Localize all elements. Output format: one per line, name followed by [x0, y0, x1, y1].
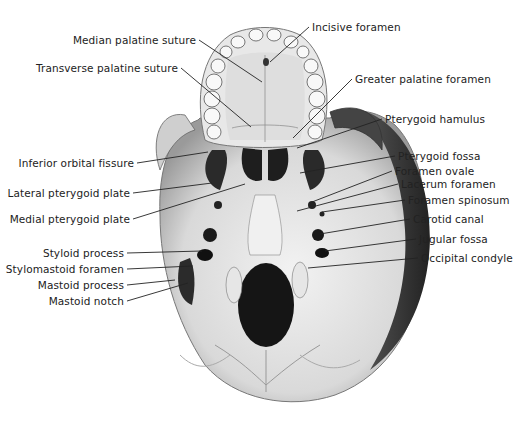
label-greater-palatine-foramen: Greater palatine foramen: [355, 73, 491, 85]
label-median-palatine-suture: Median palatine suture: [73, 34, 196, 46]
label-foramen-ovale: Foramen ovale: [395, 165, 474, 177]
label-pterygoid-hamulus: Pterygoid hamulus: [385, 113, 485, 125]
label-carotid-canal: Carotid canal: [413, 213, 484, 225]
label-lateral-pterygoid-plate: Lateral pterygoid plate: [7, 187, 130, 199]
label-foramen-spinosum: Foramen spinosum: [408, 194, 510, 206]
label-pterygoid-fossa: Pterygoid fossa: [398, 150, 480, 162]
label-medial-pterygoid-plate: Medial pterygoid plate: [10, 213, 130, 225]
label-inferior-orbital-fissure: Inferior orbital fissure: [18, 157, 134, 169]
leader-mastoid-process: [127, 280, 175, 285]
cropped-caption: [110, 410, 410, 416]
label-occipital-condyle: Occipital condyle: [421, 252, 513, 264]
label-jugular-fossa: Jugular fossa: [419, 233, 488, 245]
label-mastoid-notch: Mastoid notch: [49, 295, 124, 307]
label-lacerum-foramen: Lacerum foramen: [401, 178, 496, 190]
label-incisive-foramen: Incisive foramen: [312, 21, 401, 33]
label-stylomastoid-foramen: Stylomastoid foramen: [6, 263, 124, 275]
label-transverse-palatine-suture: Transverse palatine suture: [36, 62, 178, 74]
label-mastoid-process: Mastoid process: [38, 279, 124, 291]
label-styloid-process: Styloid process: [43, 247, 124, 259]
